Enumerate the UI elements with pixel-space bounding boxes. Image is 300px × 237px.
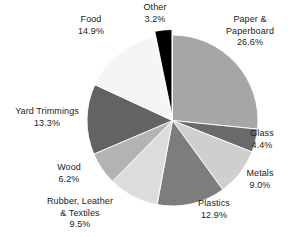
- slice-label-rubber-leather-textiles: Rubber, Leather & Textiles 9.5%: [28, 196, 132, 231]
- slice-label-food-value: 14.9%: [60, 26, 122, 38]
- slice-label-plastics: Plastics 12.9%: [182, 198, 246, 221]
- slice-label-other-name: Other: [124, 2, 186, 14]
- slice-label-paper-paperboard: Paper & Paperboard 26.6%: [206, 14, 294, 49]
- slice-label-paper-name-line2: Paperboard: [206, 26, 294, 38]
- pie-chart-figure: Other 3.2% Paper & Paperboard 26.6% Glas…: [0, 0, 300, 237]
- slice-label-rubber-value: 9.5%: [28, 219, 132, 231]
- slice-label-glass-value: 4.4%: [234, 140, 290, 152]
- slice-label-glass-name: Glass: [234, 128, 290, 140]
- slice-label-rubber-name-line1: Rubber, Leather: [28, 196, 132, 208]
- pie-slice-paper-paperboard: [173, 35, 258, 129]
- slice-label-yard-value: 13.3%: [0, 118, 94, 130]
- slice-label-yard-name: Yard Trimmings: [0, 106, 94, 118]
- slice-label-yard-trimmings: Yard Trimmings 13.3%: [0, 106, 94, 129]
- slice-label-wood-value: 6.2%: [38, 174, 100, 186]
- slice-label-other-value: 3.2%: [124, 14, 186, 26]
- slice-label-rubber-name-line2: & Textiles: [28, 208, 132, 220]
- slice-label-metals-value: 9.0%: [232, 180, 288, 192]
- slice-label-metals: Metals 9.0%: [232, 168, 288, 191]
- slice-label-plastics-value: 12.9%: [182, 210, 246, 222]
- slice-label-metals-name: Metals: [232, 168, 288, 180]
- slice-label-plastics-name: Plastics: [182, 198, 246, 210]
- slice-label-paper-value: 26.6%: [206, 37, 294, 49]
- slice-label-glass: Glass 4.4%: [234, 128, 290, 151]
- slice-label-other: Other 3.2%: [124, 2, 186, 25]
- slice-label-wood: Wood 6.2%: [38, 162, 100, 185]
- slice-label-paper-name-line1: Paper &: [206, 14, 294, 26]
- slice-label-food: Food 14.9%: [60, 14, 122, 37]
- slice-label-wood-name: Wood: [38, 162, 100, 174]
- slice-label-food-name: Food: [60, 14, 122, 26]
